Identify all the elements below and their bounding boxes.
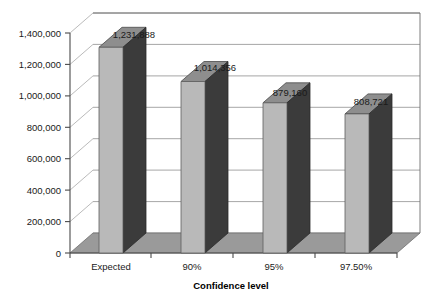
y-axis-ticks bbox=[65, 33, 70, 253]
y-tick-label: 600,000 bbox=[27, 153, 61, 164]
x-tick-label: 97.50% bbox=[340, 261, 373, 272]
y-tick-label: 400,000 bbox=[27, 185, 61, 196]
bar-chart-figure: 1,400,000 1,200,000 1,000,000 800,000 60… bbox=[0, 0, 441, 296]
y-tick-label: 200,000 bbox=[27, 216, 61, 227]
y-tick-label: 1,000,000 bbox=[19, 90, 61, 101]
data-label: 879,160 bbox=[273, 87, 307, 98]
y-tick-label: 1,400,000 bbox=[19, 28, 61, 39]
y-axis-tick-labels: 1,400,000 1,200,000 1,000,000 800,000 60… bbox=[19, 28, 61, 259]
x-axis-ticks bbox=[70, 253, 397, 258]
data-label: 808,721 bbox=[354, 96, 388, 107]
y-tick-label: 0 bbox=[56, 248, 61, 259]
chart-canvas: 1,400,000 1,200,000 1,000,000 800,000 60… bbox=[0, 0, 441, 296]
depth-connectors bbox=[70, 13, 93, 222]
x-tick-label: 95% bbox=[264, 261, 284, 272]
bar-column[interactable] bbox=[345, 94, 392, 253]
bar-column[interactable] bbox=[263, 83, 310, 253]
x-axis-title: Confidence level bbox=[193, 280, 269, 291]
data-label: 1,231,888 bbox=[113, 29, 155, 40]
x-tick-label: 90% bbox=[182, 261, 202, 272]
y-tick-label: 1,200,000 bbox=[19, 59, 61, 70]
x-tick-label: Expected bbox=[91, 261, 131, 272]
bar-column[interactable] bbox=[181, 62, 228, 254]
data-label: 1,014,356 bbox=[194, 62, 236, 73]
y-tick-label: 800,000 bbox=[27, 122, 61, 133]
bar-column[interactable] bbox=[99, 27, 146, 253]
x-axis-tick-labels: Expected 90% 95% 97.50% bbox=[91, 261, 372, 272]
